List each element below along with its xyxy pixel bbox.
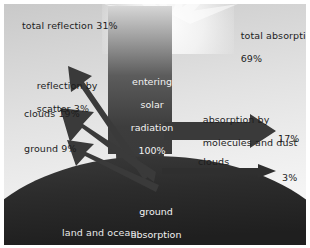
label-ground-absorption-line2: absorption [131,229,182,240]
label-absorption-molecules-line1: absorption by [203,114,270,125]
label-total-absorption-line1: total absorption [241,30,306,41]
label-total-absorption: total absorption 69% [222,18,306,76]
label-reflection-scatter-line1: reflection by [37,80,98,91]
label-land-and-ocean: land and ocean [62,227,137,239]
label-beam-line4: 100% [138,145,165,156]
label-entering-solar-radiation: entering solar radiation 100% [110,64,176,168]
label-beam-line3: radiation [131,122,173,133]
label-ground-reflect: ground 9% [24,143,77,155]
label-absorption-molecules: absorption by molecules and dust [184,102,297,160]
label-ground-absorption-line1: ground [139,206,173,217]
label-clouds-absorb: clouds [198,156,229,168]
label-beam-line2: solar [140,99,163,110]
diagram-frame: total reflection 31% total absorption 69… [4,4,306,245]
label-pct-molecules: 17% [278,133,299,145]
label-total-reflection: total reflection 31% [22,20,118,32]
diagram-canvas: total reflection 31% total absorption 69… [0,0,310,248]
label-clouds-reflect: clouds 19% [24,108,80,120]
label-total-absorption-line2: 69% [241,53,262,64]
label-beam-line1: entering [132,76,172,87]
label-pct-clouds: 3% [282,172,297,184]
